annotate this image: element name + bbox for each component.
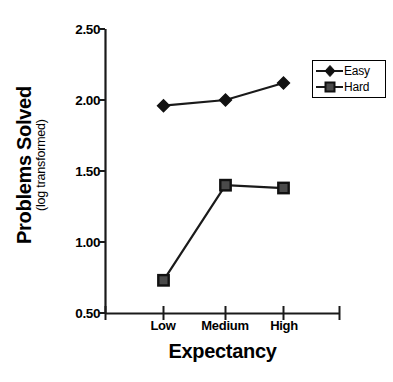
line-chart-figure: Problems Solved (log transformed) 2.50 2… <box>0 0 393 382</box>
x-axis-title: Expectancy <box>105 340 340 363</box>
legend-label-hard: Hard <box>344 80 369 94</box>
data-point-easy-high <box>278 77 290 89</box>
legend-sample-hard <box>316 81 343 93</box>
y-axis-ticks <box>99 29 105 313</box>
data-point-hard-low <box>158 275 168 285</box>
x-tick-label-low: Low <box>150 318 175 333</box>
legend-entry-hard: Hard <box>313 79 385 95</box>
square-marker <box>323 81 336 94</box>
data-series-layer <box>158 77 290 286</box>
data-point-hard-high <box>278 183 288 193</box>
plot-area <box>0 0 393 382</box>
legend-entry-easy: Easy <box>313 63 385 79</box>
legend-sample-easy <box>316 65 343 77</box>
data-point-hard-medium <box>220 180 230 190</box>
data-point-easy-low <box>158 100 170 112</box>
x-tick-label-high: High <box>270 318 298 333</box>
series-line-hard <box>164 185 284 280</box>
x-tick-label-medium: Medium <box>201 318 248 333</box>
diamond-marker <box>323 65 336 78</box>
data-point-easy-medium <box>220 94 232 106</box>
chart-legend: Easy Hard <box>312 60 386 98</box>
legend-label-easy: Easy <box>344 64 370 78</box>
